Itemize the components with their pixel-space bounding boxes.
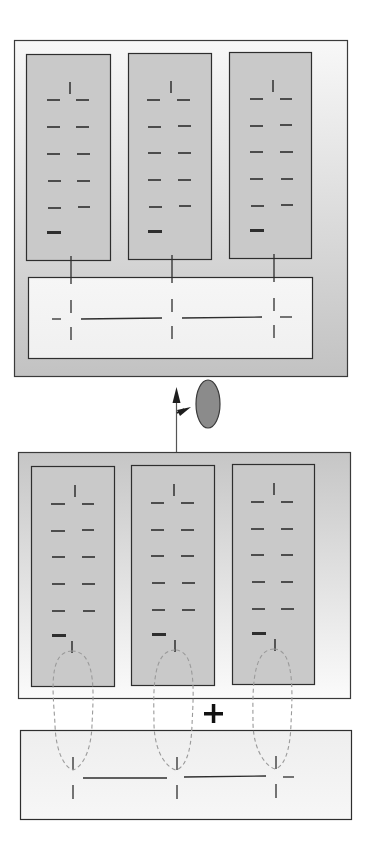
double-bond-marker — [148, 230, 162, 233]
top-column-2 — [129, 54, 212, 260]
plus-icon — [204, 704, 223, 723]
double-bond-marker — [250, 229, 264, 232]
double-bond-marker — [47, 231, 61, 234]
bottom-column-1 — [32, 467, 115, 687]
bottom-column-3 — [233, 465, 315, 685]
double-bond-marker — [52, 634, 66, 637]
transition — [173, 380, 221, 452]
top-column-1 — [27, 55, 111, 261]
double-bond-marker — [252, 632, 266, 635]
top-panel — [15, 41, 348, 377]
bottom-backbone-strip — [21, 731, 352, 820]
double-bond-marker — [152, 633, 166, 636]
bottom-column-2 — [132, 466, 215, 686]
up-arrow-icon — [173, 387, 181, 403]
oval-molecule — [196, 380, 220, 428]
top-column-3 — [230, 53, 312, 259]
bottom-panel — [19, 453, 351, 699]
diagram-canvas — [0, 0, 372, 858]
